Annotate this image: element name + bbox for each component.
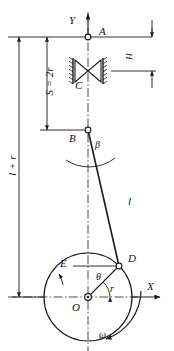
connecting-rod — [88, 130, 119, 266]
point-b-joint — [85, 127, 91, 133]
dimension-stroke-label: S = 2r — [44, 67, 55, 95]
angle-theta-arc — [103, 282, 110, 297]
crank-arm — [88, 266, 119, 297]
dimension-head-height-label: H — [125, 53, 134, 60]
dimension-total-label: l + r — [7, 155, 18, 175]
point-b-label: B — [69, 133, 76, 144]
crank-radius-label: r — [110, 284, 114, 294]
point-o-hub — [85, 294, 92, 301]
rod-length-label: l — [128, 196, 131, 207]
angle-theta-label: θ — [96, 272, 101, 282]
angle-beta-label: β — [95, 140, 100, 150]
point-d-label: D — [128, 253, 136, 264]
point-o-label: O — [72, 302, 80, 313]
omega-label: ω — [99, 330, 106, 340]
point-d-joint — [116, 263, 122, 269]
arc-e-sweep — [59, 274, 63, 285]
point-e-label: E — [60, 258, 67, 269]
y-axis-label: Y — [69, 15, 75, 26]
mechanism-svg — [0, 0, 174, 351]
omega-arrow — [106, 291, 141, 339]
diagram-canvas: Y A C B β l D E θ r O X ω S = 2r l + r H — [0, 0, 174, 351]
point-a-joint — [85, 34, 91, 40]
point-c-label: C — [75, 80, 82, 91]
x-axis-label: X — [147, 281, 154, 292]
point-a-label: A — [99, 26, 106, 37]
angle-beta-arc — [66, 158, 115, 167]
